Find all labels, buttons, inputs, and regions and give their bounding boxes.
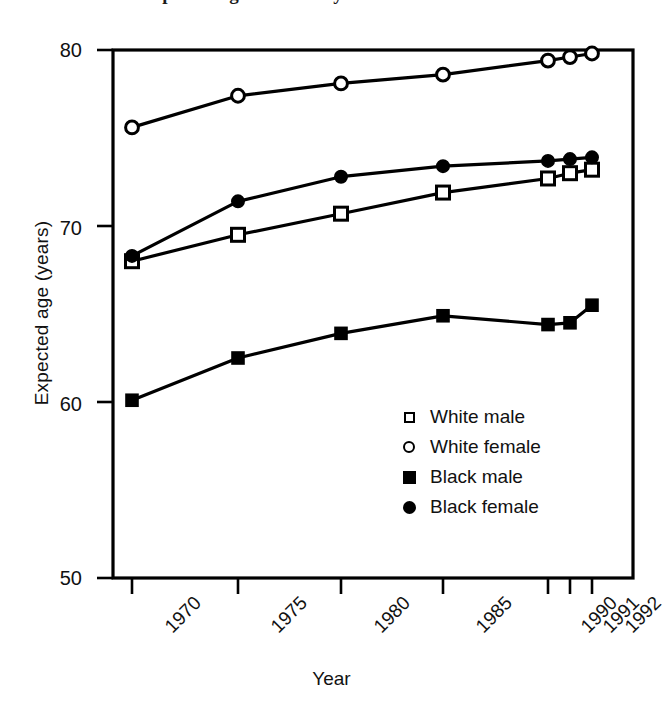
data-point-1991 xyxy=(564,317,576,329)
data-point-1970 xyxy=(126,394,138,406)
data-point-1992 xyxy=(586,163,599,176)
data-point-1991 xyxy=(564,167,577,180)
data-point-1980 xyxy=(335,327,347,339)
data-point-1975 xyxy=(232,89,245,102)
data-point-1985 xyxy=(437,186,450,199)
legend-item-black-female[interactable]: Black female xyxy=(398,492,613,522)
data-point-1985 xyxy=(437,310,449,322)
data-point-1975 xyxy=(232,195,244,207)
data-point-1991 xyxy=(564,51,577,64)
data-point-1992 xyxy=(586,151,598,163)
data-point-1985 xyxy=(437,68,450,81)
data-point-1992 xyxy=(586,47,599,60)
data-point-1990 xyxy=(542,54,555,67)
series-white-male xyxy=(126,163,599,268)
legend-label-black-male: Black male xyxy=(430,466,523,488)
legend-item-white-female[interactable]: White female xyxy=(398,432,613,462)
data-point-1990 xyxy=(542,172,555,185)
chart-legend: White male White female Black male Black… xyxy=(398,402,613,522)
series-line xyxy=(132,305,592,400)
filled-circle-marker-icon xyxy=(398,501,420,514)
data-series-layer xyxy=(126,47,599,406)
legend-label-white-male: White male xyxy=(430,406,525,428)
data-point-1992 xyxy=(586,299,598,311)
data-point-1980 xyxy=(335,207,348,220)
series-line xyxy=(132,170,592,262)
legend-item-black-male[interactable]: Black male xyxy=(398,462,613,492)
data-point-1975 xyxy=(232,352,244,364)
series-line xyxy=(132,157,592,256)
chart-figure: Expected age of death by race and sex Ex… xyxy=(0,0,663,708)
data-point-1970 xyxy=(126,250,138,262)
legend-item-white-male[interactable]: White male xyxy=(398,402,613,432)
legend-label-white-female: White female xyxy=(430,436,541,458)
plot-area xyxy=(0,0,663,708)
series-black-male xyxy=(126,299,598,406)
filled-square-marker-icon xyxy=(398,471,420,484)
open-circle-marker-icon xyxy=(398,441,420,453)
data-point-1990 xyxy=(542,319,554,331)
data-point-1991 xyxy=(564,153,576,165)
legend-label-black-female: Black female xyxy=(430,496,539,518)
open-square-marker-icon xyxy=(398,412,420,423)
data-point-1970 xyxy=(126,121,139,134)
series-line xyxy=(132,54,592,128)
data-point-1975 xyxy=(232,228,245,241)
series-white-female xyxy=(126,47,599,134)
data-point-1980 xyxy=(335,171,347,183)
data-point-1990 xyxy=(542,155,554,167)
data-point-1980 xyxy=(335,77,348,90)
data-point-1985 xyxy=(437,160,449,172)
